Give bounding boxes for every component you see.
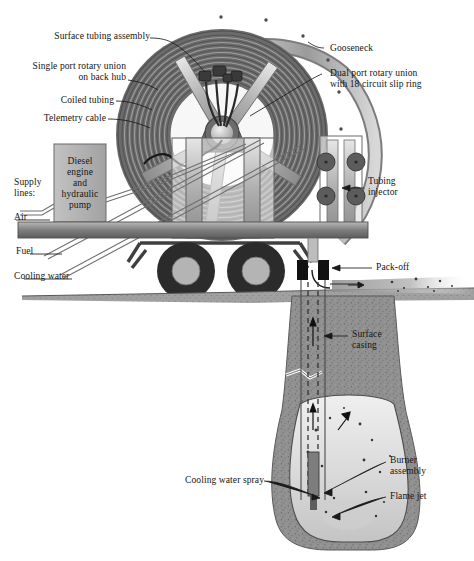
label-surface-tubing-assembly: Surface tubing assembly [24, 31, 150, 42]
label-supply-lines: Supply lines: [14, 177, 42, 199]
label-coiled-tubing: Coiled tubing [24, 95, 114, 106]
label-flame-jet: Flame jet [390, 491, 427, 502]
label-gooseneck: Gooseneck [330, 43, 373, 54]
label-cooling-water: Cooling water [14, 271, 69, 282]
label-pack-off: Pack-off [376, 262, 409, 273]
label-telemetry-cable: Telemetry cable [10, 113, 106, 124]
label-diesel-engine: Diesel engine and hydraulic pump [56, 156, 104, 211]
wellbore-and-cavern [272, 280, 420, 550]
label-dual-port-rotary-union: Dual port rotary union with 18 circuit s… [330, 68, 472, 90]
returns-debris-jet [312, 270, 474, 294]
label-single-port-rotary-union: Single port rotary union on back hub [4, 61, 126, 83]
label-fuel: Fuel [16, 246, 33, 257]
label-burner-assembly: Burner assembly [390, 455, 426, 477]
label-air: Air [14, 212, 27, 223]
label-cooling-water-spray: Cooling water spray [152, 475, 264, 486]
label-surface-casing: Surface casing [352, 329, 382, 351]
label-tubing-injector: Tubing injector [368, 176, 398, 198]
diagram-canvas: Surface tubing assembly Single port rota… [0, 0, 474, 561]
